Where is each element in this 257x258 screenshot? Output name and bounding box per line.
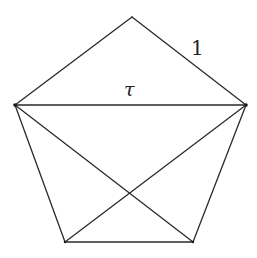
- side-top-left: [15, 17, 132, 105]
- vertex-bottom-right: [192, 241, 194, 243]
- side-length-label: 1: [191, 36, 204, 60]
- vertex-left: [13, 103, 17, 107]
- side-top-right: [132, 17, 246, 105]
- diagonal-length-label: τ: [124, 78, 135, 100]
- pentagon-diagram: 1 τ: [0, 0, 257, 258]
- vertex-bottom-left: [64, 241, 66, 243]
- diagonal-left-bottom-right: [15, 105, 193, 242]
- side-left-bottom-left: [15, 105, 65, 242]
- vertex-right: [244, 103, 248, 107]
